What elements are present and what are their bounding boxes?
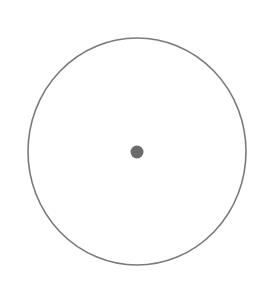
circle-diagram [0,0,269,284]
center-dot [131,146,144,159]
background [0,0,269,284]
diagram-canvas [0,0,269,284]
